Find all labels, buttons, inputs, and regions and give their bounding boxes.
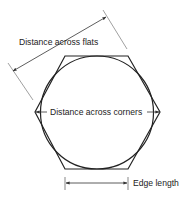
flats-extension-line-right <box>103 10 127 49</box>
edge-label: Edge length <box>133 178 179 188</box>
hexagon-dimension-diagram: Distance across flats Distance across co… <box>0 0 192 197</box>
corners-label: Distance across corners <box>50 107 142 117</box>
flats-extension-line-left <box>8 63 33 100</box>
flats-label: Distance across flats <box>19 37 98 47</box>
